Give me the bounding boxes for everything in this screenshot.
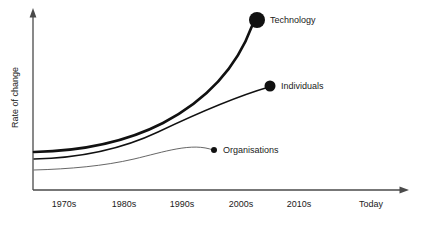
series-label-technology: Technology [270,15,316,25]
arrow-right-icon [400,187,410,194]
axes-group [30,8,409,193]
x-tick-label-2010s: 2010s [287,199,312,209]
series-marker-individuals [265,81,276,92]
x-tick-label-1970s: 1970s [52,199,77,209]
rate-of-change-chart: Rate of change Technology Individuals Or… [0,0,421,225]
arrow-up-icon [30,8,37,18]
series-line-technology [34,26,252,152]
y-axis-title: Rate of change [10,67,20,128]
series-markers-group [211,12,276,153]
chart-container: Rate of change Technology Individuals Or… [0,0,421,225]
series-marker-technology [249,12,265,28]
x-tick-label-1980s: 1980s [112,199,137,209]
series-line-organisations-guide [34,143,213,170]
series-label-organisations: Organisations [223,145,279,155]
series-label-individuals: Individuals [281,81,324,91]
x-tick-label-1990s: 1990s [170,199,195,209]
x-tick-label-2000s: 2000s [229,199,254,209]
x-axis-tick-labels: 1970s 1980s 1990s 2000s 2010s Today [52,199,384,209]
series-marker-organisations [211,147,217,153]
x-tick-label-today: Today [359,199,384,209]
